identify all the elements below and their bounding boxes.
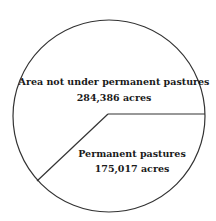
- pie-chart: Area not under permanent pastures 284,38…: [0, 0, 216, 221]
- slice-value: 284,386 acres: [77, 92, 152, 104]
- slice-name: Area not under permanent pastures: [18, 76, 210, 87]
- pie-outline: [13, 20, 205, 212]
- slice-name: Permanent pastures: [78, 148, 186, 159]
- slice-value: 175,017 acres: [95, 163, 170, 175]
